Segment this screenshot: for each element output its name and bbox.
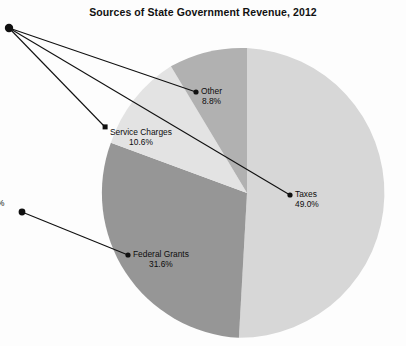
slice-label-taxes: Taxes 49.0% [295, 190, 319, 209]
label-dot-service-charges [103, 124, 108, 129]
leader-hub-dot-lower [19, 209, 26, 216]
label-dot-federal-grants [125, 252, 130, 257]
label-dot-taxes [287, 192, 292, 197]
leader-hub-dot [5, 24, 13, 32]
leader-line-other [9, 28, 196, 92]
slice-label-clipped-pct: % [0, 198, 4, 208]
slice-label-service-charges-pct: 10.6% [110, 138, 172, 148]
leader-line-service-charges [9, 28, 105, 127]
pie-chart-graphic [0, 0, 406, 346]
slice-label-taxes-pct: 49.0% [295, 200, 319, 210]
slice-label-federal-grants: Federal Grants 31.6% [133, 250, 189, 269]
label-dot-other [193, 89, 198, 94]
slice-label-service-charges: Service Charges 10.6% [110, 128, 172, 147]
slice-label-clipped: % [0, 199, 4, 209]
slice-label-other: Other 8.8% [201, 87, 222, 106]
slice-label-federal-grants-pct: 31.6% [133, 260, 189, 270]
chart-canvas: Sources of State Government Revenue, 201… [0, 0, 406, 346]
slice-label-other-pct: 8.8% [201, 97, 222, 107]
